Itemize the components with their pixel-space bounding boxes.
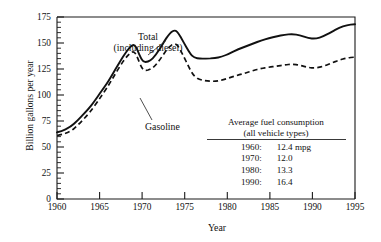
inset-row-year: 1980: (241, 165, 277, 177)
gasoline-label-leader-line (140, 98, 152, 120)
y-tick-label-25: 25 (29, 168, 51, 178)
y-tick-label-125: 125 (29, 64, 51, 74)
y-tick-label-75: 75 (29, 116, 51, 126)
inset-title-line1: Average fuel consumption (205, 117, 347, 128)
inset-row-value: 16.4 (277, 177, 311, 189)
total-series-annotation: Total (including diesel) (96, 32, 200, 54)
x-tick-label-1990: 1990 (295, 202, 329, 212)
inset-table: 1960: 12.4 mpg 1970: 12.0 1980: 13.3 199… (241, 142, 311, 188)
x-axis-major-ticks (57, 192, 355, 199)
y-axis-label: Billion gallons per year (24, 36, 35, 176)
x-tick-label-1980: 1980 (210, 202, 244, 212)
inset-row-value: 12.4 mpg (277, 142, 311, 154)
gasoline-series-annotation: Gasoline (145, 122, 180, 133)
table-row: 1990: 16.4 (241, 177, 311, 189)
table-row: 1970: 12.0 (241, 153, 311, 165)
table-row: 1960: 12.4 mpg (241, 142, 311, 154)
x-tick-label-1965: 1965 (83, 202, 117, 212)
y-axis-minor-ticks (57, 22, 61, 194)
x-tick-label-1960: 1960 (40, 202, 74, 212)
y-axis-major-ticks (57, 17, 64, 199)
x-axis-label: Year (187, 222, 247, 233)
x-tick-label-1985: 1985 (253, 202, 287, 212)
inset-row-year: 1990: (241, 177, 277, 189)
inset-row-year: 1970: (241, 153, 277, 165)
fuel-consumption-inset: Average fuel consumption (all vehicle ty… (205, 117, 347, 188)
x-tick-label-1995: 1995 (338, 202, 372, 212)
total-annotation-line2: (including diesel) (96, 43, 200, 54)
table-row: 1980: 13.3 (241, 165, 311, 177)
inset-title: Average fuel consumption (all vehicle ty… (205, 117, 347, 139)
y-tick-label-100: 100 (29, 90, 51, 100)
y-tick-label-150: 150 (29, 38, 51, 48)
inset-title-line2: (all vehicle types) (205, 128, 347, 139)
x-tick-label-1975: 1975 (168, 202, 202, 212)
inset-row-value: 12.0 (277, 153, 311, 165)
x-tick-label-1970: 1970 (125, 202, 159, 212)
inset-row-value: 13.3 (277, 165, 311, 177)
fuel-consumption-chart-figure: Billion gallons per year 175 150 125 100… (0, 0, 381, 242)
inset-row-year: 1960: (241, 142, 277, 154)
y-tick-label-175: 175 (29, 12, 51, 22)
y-tick-label-50: 50 (29, 142, 51, 152)
